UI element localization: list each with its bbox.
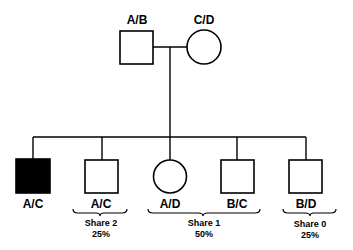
mother-genotype-label: C/D (194, 13, 215, 27)
share-0-group: Share 0 25% (294, 219, 327, 241)
child-5-male (289, 160, 322, 193)
child-5-genotype-label: B/D (296, 197, 317, 211)
child-1-genotype-label: A/C (23, 197, 44, 211)
child-2-genotype-label: A/C (91, 197, 112, 211)
share-1-label: Share 1 (188, 218, 221, 229)
child-2-male (85, 160, 118, 193)
share-1-percent: 50% (188, 229, 221, 240)
father-genotype-label: A/B (127, 13, 148, 27)
share-2-percent: 25% (85, 229, 118, 240)
share-1-group: Share 1 50% (188, 218, 221, 240)
share-2-group: Share 2 25% (85, 218, 118, 240)
pedigree-diagram (0, 0, 353, 250)
father-symbol (120, 31, 153, 64)
share-0-label: Share 0 (294, 219, 327, 230)
child-3-genotype-label: A/D (160, 197, 181, 211)
share-0-percent: 25% (294, 230, 327, 241)
mother-symbol (187, 30, 221, 64)
child-4-male (221, 160, 254, 193)
child-3-female (154, 160, 187, 193)
child-1-affected-male (16, 159, 50, 193)
child-4-genotype-label: B/C (227, 197, 248, 211)
share-2-label: Share 2 (85, 218, 118, 229)
